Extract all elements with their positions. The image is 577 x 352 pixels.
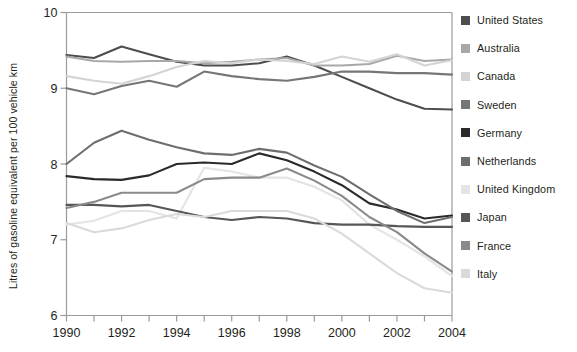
legend-label: Canada	[477, 70, 515, 82]
x-tick-label: 1994	[163, 326, 191, 340]
series-line-united-kingdom	[67, 168, 453, 276]
legend-label: Japan	[477, 211, 507, 223]
y-tick-label: 6	[51, 309, 58, 323]
legend-label: Germany	[477, 127, 522, 139]
legend-item-united-states[interactable]: United States	[461, 6, 577, 34]
legend-label: Netherlands	[477, 155, 536, 167]
legend-swatch-icon	[461, 241, 470, 250]
legend-item-australia[interactable]: Australia	[461, 34, 577, 62]
legend-label: Sweden	[477, 99, 517, 111]
legend-item-germany[interactable]: Germany	[461, 119, 577, 147]
y-tick-label: 7	[51, 233, 58, 247]
series-line-italy	[67, 211, 453, 293]
legend-label: France	[477, 240, 511, 252]
series-line-france	[67, 169, 453, 272]
legend-item-netherlands[interactable]: Netherlands	[461, 147, 577, 175]
legend-item-italy[interactable]: Italy	[461, 260, 577, 288]
legend-swatch-icon	[461, 100, 470, 109]
x-tick-label: 1996	[218, 326, 246, 340]
legend-item-france[interactable]: France	[461, 232, 577, 260]
x-tick-label: 2004	[438, 326, 466, 340]
x-tick-label: 1998	[273, 326, 301, 340]
legend-swatch-icon	[461, 72, 470, 81]
x-tick-label: 1990	[53, 326, 81, 340]
y-tick-label: 8	[51, 158, 58, 172]
y-tick-label: 9	[51, 82, 58, 96]
legend-label: Italy	[477, 268, 497, 280]
legend-item-canada[interactable]: Canada	[461, 62, 577, 90]
series-layer	[67, 47, 453, 293]
legend: United StatesAustraliaCanadaSwedenGerman…	[461, 6, 577, 288]
legend-swatch-icon	[461, 128, 470, 137]
legend-swatch-icon	[461, 157, 470, 166]
legend-label: United Kingdom	[477, 183, 555, 195]
legend-label: United States	[477, 14, 543, 26]
x-tick-label: 2002	[383, 326, 411, 340]
legend-swatch-icon	[461, 213, 470, 222]
legend-item-sweden[interactable]: Sweden	[461, 91, 577, 119]
legend-swatch-icon	[461, 44, 470, 53]
x-tick-label: 2000	[328, 326, 356, 340]
legend-swatch-icon	[461, 16, 470, 25]
y-tick-label: 10	[44, 6, 58, 20]
legend-label: Australia	[477, 42, 520, 54]
legend-item-united-kingdom[interactable]: United Kingdom	[461, 175, 577, 203]
legend-swatch-icon	[461, 269, 470, 278]
line-chart: Litres of gasoline equivalent per 100 ve…	[0, 0, 577, 352]
x-tick-label: 1992	[108, 326, 136, 340]
legend-item-japan[interactable]: Japan	[461, 203, 577, 231]
legend-swatch-icon	[461, 185, 470, 194]
